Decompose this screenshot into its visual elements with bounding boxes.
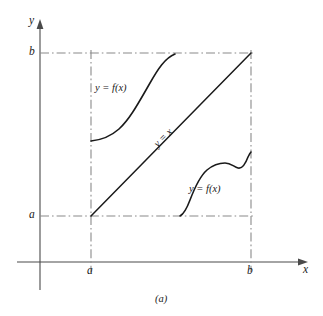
- y-axis: [37, 19, 44, 290]
- x-axis: [17, 259, 308, 266]
- y-axis-label: y: [29, 15, 34, 27]
- y-tick-label-b: b: [29, 46, 35, 58]
- curve-upper-f-of-x: [91, 54, 175, 141]
- lower-curve-label: y = f(x): [189, 184, 221, 195]
- figure-caption: (a): [155, 294, 167, 305]
- y-tick-label-a: a: [29, 209, 35, 221]
- x-axis-label: x: [303, 264, 308, 276]
- upper-curve-label: y = f(x): [95, 83, 127, 94]
- figure-canvas: [0, 0, 323, 316]
- figure-container: y x b a a b y = f(x) y = x y = f(x) (a): [0, 0, 323, 316]
- x-tick-label-b: b: [247, 265, 253, 277]
- x-tick-label-a: a: [87, 265, 93, 277]
